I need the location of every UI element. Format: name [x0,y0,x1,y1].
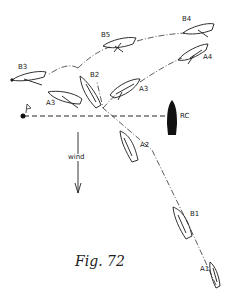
label-b2: B2 [90,72,99,79]
label-a1: A1 [200,266,209,273]
label-a2: A2 [140,142,149,149]
track-a4 [140,58,182,82]
boat-b2-icon [80,76,101,108]
boat-b5-icon [103,37,136,52]
boat-a2-icon [120,131,138,162]
label-a3-right: A3 [139,86,148,93]
committee-boat-icon [167,100,177,135]
boat-a3-right-icon [110,79,140,100]
figure-caption: Fig. 72 [75,253,125,269]
track-b5 [78,47,110,68]
label-b3: B3 [18,64,27,71]
label-a4: A4 [203,54,212,61]
label-b4: B4 [182,16,191,23]
label-wind: wind [68,154,85,161]
track-b3 [48,66,78,75]
label-b5: B5 [101,32,110,39]
track-b4 [137,33,185,41]
label-rc: RC [180,113,189,120]
boat-b3-icon [11,71,46,85]
boat-b4-icon [183,24,214,37]
wind-arrow-icon [75,132,81,193]
boat-a1-icon [210,262,220,288]
label-b1: B1 [190,211,199,218]
label-a3-left: A3 [46,100,55,107]
